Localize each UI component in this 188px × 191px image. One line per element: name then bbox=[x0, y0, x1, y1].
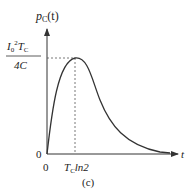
x-axis-label: t bbox=[181, 148, 185, 160]
origin-x-label: 0 bbox=[43, 161, 49, 173]
origin-y-label: 0 bbox=[36, 148, 42, 160]
power-curve-diagram: pC(t) I02TC 4C 0 0 TCln2 t (c) bbox=[0, 0, 188, 191]
figure-caption: (c) bbox=[82, 176, 95, 189]
power-curve bbox=[47, 58, 170, 154]
peak-time-label: TCln2 bbox=[64, 161, 89, 175]
peak-value-numerator: I02TC bbox=[6, 39, 29, 54]
peak-value-denominator: 4C bbox=[14, 59, 28, 71]
y-axis-label: pC(t) bbox=[35, 9, 59, 24]
